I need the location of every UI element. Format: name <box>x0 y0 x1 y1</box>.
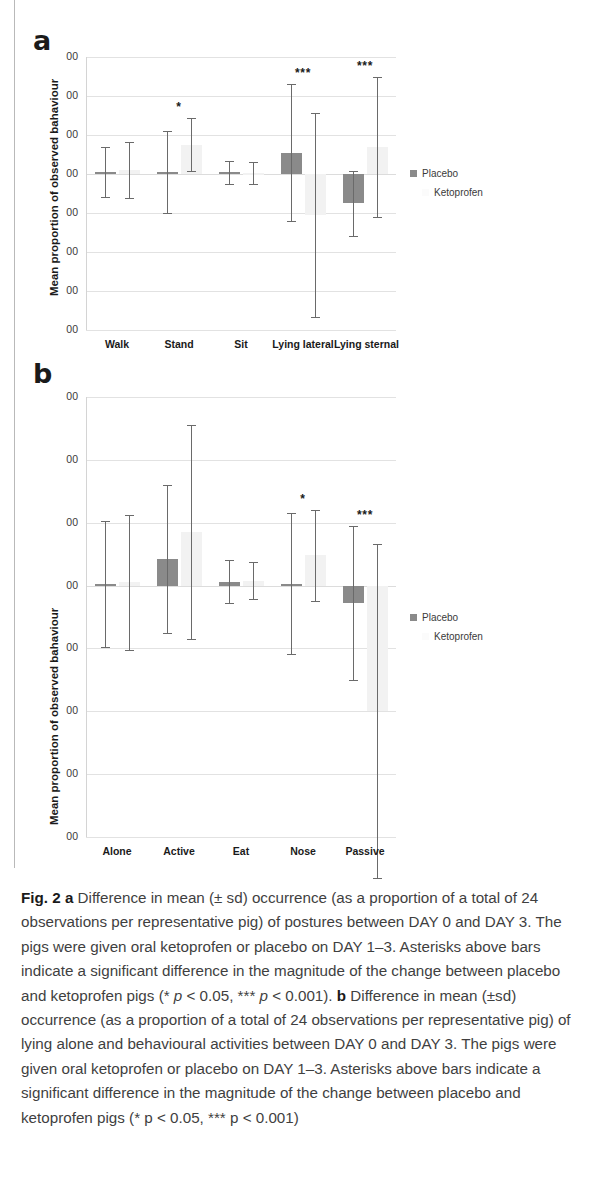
error-bar-cap-lower <box>187 639 196 640</box>
error-bar-line <box>191 118 192 171</box>
significance-marker: * <box>148 102 210 112</box>
error-bar-cap-upper <box>349 526 358 527</box>
error-bar-cap-lower <box>287 221 296 222</box>
error-bar-cap-upper <box>187 425 196 426</box>
panel-a-plot-area: 0000000000000000WalkStand*SitLying later… <box>86 57 396 330</box>
y-axis-tick-label: 00 <box>44 50 78 62</box>
error-bar-cap-lower <box>225 603 234 604</box>
legend-item-placebo: Placebo <box>410 168 458 179</box>
legend-item-ketoprofen: Ketoprofen <box>422 631 483 642</box>
caption-a-p-rest-1: < 0.05, *** <box>182 987 259 1004</box>
caption-b-letter: b <box>337 987 346 1004</box>
y-axis-tick-label: 00 <box>44 579 78 591</box>
y-axis-line <box>86 57 87 330</box>
y-axis-tick-label: 00 <box>44 284 78 296</box>
panel-b-y-axis-title: Mean proportion of observed bahaviour <box>48 608 60 825</box>
error-bar-line <box>229 560 230 603</box>
error-bar-cap-lower <box>125 650 134 651</box>
error-bar-cap-upper <box>287 513 296 514</box>
y-axis-tick-label: 00 <box>44 390 78 402</box>
error-bar-line <box>291 84 292 221</box>
gridline <box>86 837 396 838</box>
error-bar-line <box>377 77 378 217</box>
error-bar-cap-lower <box>101 647 110 648</box>
error-bar-cap-upper <box>311 510 320 511</box>
y-axis-tick-label: 00 <box>44 641 78 653</box>
y-axis-tick-label: 00 <box>44 245 78 257</box>
significance-marker: *** <box>334 510 396 520</box>
caption-b-text: Difference in mean (±sd) occurrence (as … <box>21 987 571 1126</box>
gridline <box>86 774 396 775</box>
error-bar-cap-upper <box>101 147 110 148</box>
error-bar-cap-upper <box>249 162 258 163</box>
significance-marker: *** <box>272 68 334 78</box>
error-bar-cap-upper <box>287 84 296 85</box>
gridline <box>86 648 396 649</box>
error-bar-cap-upper <box>225 161 234 162</box>
x-axis-tick-label: Stand <box>148 338 210 350</box>
gridline <box>86 523 396 524</box>
error-bar-cap-upper <box>187 118 196 119</box>
error-bar-line <box>129 515 130 651</box>
x-axis-tick-label: Eat <box>210 845 272 857</box>
error-bar-line <box>315 113 316 317</box>
y-axis-line <box>86 397 87 837</box>
y-axis-tick-label: 00 <box>44 830 78 842</box>
x-axis-tick-label: Nose <box>272 845 334 857</box>
gridline <box>86 711 396 712</box>
y-axis-tick-label: 00 <box>44 89 78 101</box>
error-bar-cap-lower <box>349 236 358 237</box>
error-bar-line <box>105 521 106 647</box>
panel-a: a Mean proportion of observed bahaviour … <box>0 0 605 350</box>
error-bar-line <box>191 425 192 639</box>
significance-marker: * <box>272 494 334 504</box>
panel-b-letter: b <box>33 360 52 387</box>
x-axis-tick-label: Lying sternal <box>334 338 396 350</box>
y-axis-tick-label: 00 <box>44 767 78 779</box>
y-axis-tick-label: 00 <box>44 167 78 179</box>
error-bar-cap-lower <box>311 601 320 602</box>
error-bar-cap-lower <box>187 171 196 172</box>
error-bar-line <box>353 171 354 236</box>
gridline <box>86 460 396 461</box>
gridline <box>86 397 396 398</box>
gridline <box>86 96 396 97</box>
error-bar-cap-upper <box>163 485 172 486</box>
x-axis-tick-label: Passive <box>334 845 396 857</box>
error-bar-cap-upper <box>311 113 320 114</box>
legend-swatch-ketoprofen-icon <box>422 633 429 640</box>
y-axis-tick-label: 00 <box>44 704 78 716</box>
error-bar-line <box>129 142 130 198</box>
error-bar-line <box>105 147 106 196</box>
x-axis-tick-label: Sit <box>210 338 272 350</box>
error-bar-cap-lower <box>373 878 382 879</box>
error-bar-cap-upper <box>125 515 134 516</box>
error-bar-cap-upper <box>373 77 382 78</box>
error-bar-line <box>315 510 316 602</box>
y-axis-tick-label: 00 <box>44 128 78 140</box>
caption-a-p-italic-1: p <box>174 987 182 1004</box>
gridline <box>86 57 396 58</box>
error-bar-line <box>167 131 168 213</box>
error-bar-line <box>229 161 230 184</box>
error-bar-cap-lower <box>249 599 258 600</box>
error-bar-line <box>253 562 254 600</box>
x-axis-tick-label: Lying lateral <box>272 338 334 350</box>
panel-b: b Mean proportion of observed bahaviour … <box>0 350 605 870</box>
error-bar-line <box>377 544 378 878</box>
error-bar-cap-lower <box>249 184 258 185</box>
error-bar-cap-upper <box>373 544 382 545</box>
error-bar-cap-lower <box>373 217 382 218</box>
x-axis-tick-label: Active <box>148 845 210 857</box>
y-axis-tick-label: 00 <box>44 323 78 335</box>
significance-marker: *** <box>334 61 396 71</box>
error-bar-line <box>291 513 292 654</box>
error-bar-cap-lower <box>349 680 358 681</box>
error-bar-line <box>253 162 254 184</box>
legend-label-ketoprofen: Ketoprofen <box>434 631 483 642</box>
legend-label-placebo: Placebo <box>422 168 458 179</box>
error-bar-cap-lower <box>225 184 234 185</box>
gridline <box>86 135 396 136</box>
error-bar-cap-lower <box>101 197 110 198</box>
error-bar-cap-upper <box>163 131 172 132</box>
